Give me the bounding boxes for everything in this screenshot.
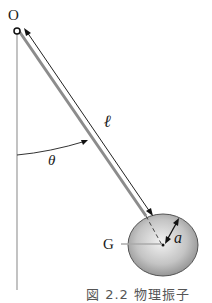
pivot-label: O — [8, 8, 19, 23]
arrowhead-bottom — [146, 208, 153, 216]
arrowhead-top — [24, 28, 31, 36]
length-arrow — [27, 32, 150, 212]
center-of-mass-label: G — [103, 237, 114, 252]
angle-label: θ — [48, 153, 55, 168]
figure-caption: 図 2.2 物理振子 — [86, 284, 190, 303]
pivot-point — [14, 28, 20, 34]
radius-label: a — [174, 230, 182, 246]
pendulum-rod — [19, 31, 146, 216]
length-label: ℓ — [104, 113, 111, 130]
angle-arrowhead — [81, 140, 88, 145]
center-of-mass-dot — [162, 244, 165, 247]
